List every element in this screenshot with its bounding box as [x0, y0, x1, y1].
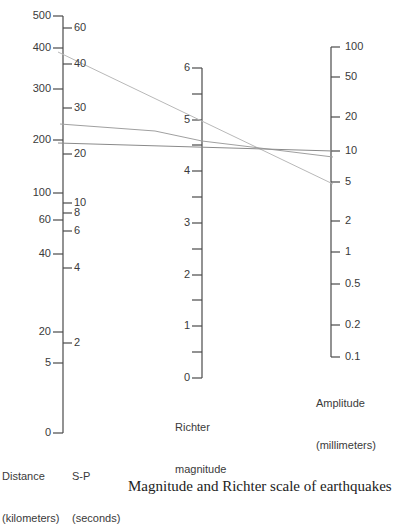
sp-tick-label: 60 — [74, 21, 86, 34]
richter-tick-label: 4 — [184, 164, 190, 177]
distance-tick-label: 20 — [39, 325, 51, 338]
amplitude-tick-label: 5 — [345, 175, 351, 188]
amplitude-axis-title: Amplitude (millimeters) — [316, 368, 376, 466]
distance-tick-label: 400 — [33, 41, 51, 54]
amplitude-tick-label: 2 — [345, 214, 351, 227]
distance-tick-label: 500 — [33, 9, 51, 22]
amplitude-tick-label: 50 — [345, 70, 357, 83]
richter-tick-label: 1 — [184, 319, 190, 332]
amplitude-title-line1: Amplitude — [316, 396, 376, 410]
sp-tick-label: 4 — [74, 261, 80, 274]
sp-tick-label: 6 — [74, 224, 80, 237]
distance-title-line2: (kilometers) — [2, 511, 59, 525]
distance-tick-label: 60 — [39, 213, 51, 226]
richter-title-line1: Richter — [175, 420, 226, 434]
richter-tick-label: 6 — [184, 61, 190, 74]
distance-tick-label: 100 — [33, 186, 51, 199]
amplitude-tick-label: 10 — [345, 144, 357, 157]
amplitude-tick-marks — [331, 47, 340, 357]
sp-tick-label: 40 — [74, 57, 86, 70]
amplitude-tick-label: 1 — [345, 245, 351, 258]
distance-tick-label: 40 — [39, 247, 51, 260]
sp-title-line2: (seconds) — [72, 511, 120, 525]
distance-tick-label: 200 — [33, 133, 51, 146]
nomogram-line-c — [58, 143, 333, 151]
richter-tick-marks — [192, 68, 202, 378]
richter-axis-title: Richter magnitude — [175, 392, 226, 490]
amplitude-title-line2: (millimeters) — [316, 438, 376, 452]
distance-tick-label: 300 — [33, 82, 51, 95]
nomogram-line-a — [58, 52, 333, 184]
distance-tick-label: 0 — [45, 426, 51, 439]
sp-tick-label: 30 — [74, 101, 86, 114]
amplitude-tick-label: 0.2 — [345, 318, 360, 331]
richter-tick-label: 2 — [184, 268, 190, 281]
clipped-caption: Magnitude and Richter scale of earthquak… — [0, 478, 396, 492]
sp-tick-marks — [63, 28, 72, 343]
distance-tick-label: 5 — [45, 356, 51, 369]
amplitude-tick-label: 20 — [345, 110, 357, 123]
richter-title-line2: magnitude — [175, 462, 226, 476]
sp-tick-label: 20 — [74, 147, 86, 160]
amplitude-tick-label: 0.5 — [345, 277, 360, 290]
richter-tick-label: 5 — [184, 113, 190, 126]
sp-tick-label: 8 — [74, 206, 80, 219]
sp-tick-label: 2 — [74, 336, 80, 349]
richter-tick-label: 0 — [184, 371, 190, 384]
amplitude-tick-label: 100 — [345, 40, 363, 53]
distance-tick-marks — [53, 16, 63, 433]
amplitude-tick-label: 0.1 — [345, 350, 360, 363]
nomogram-line-b — [60, 124, 333, 157]
richter-tick-label: 3 — [184, 216, 190, 229]
